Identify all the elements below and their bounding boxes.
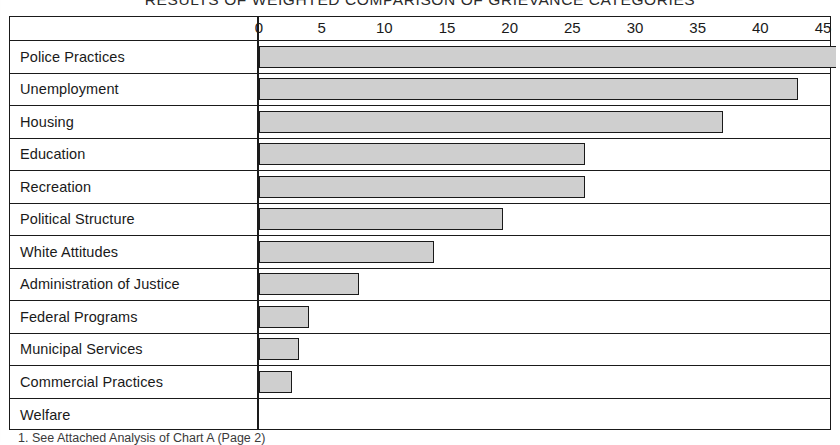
table-row: Administration of Justice <box>10 269 830 302</box>
bar <box>259 241 434 263</box>
bar <box>259 338 299 360</box>
x-axis-tick-5: 5 <box>317 19 325 36</box>
table-row: Commercial Practices <box>10 366 830 399</box>
x-axis-tick-20: 20 <box>501 19 518 36</box>
bar-track <box>259 399 830 432</box>
bar-track <box>259 204 830 236</box>
category-label: Unemployment <box>20 81 119 97</box>
table-row: Recreation <box>10 171 830 204</box>
table-row: Municipal Services <box>10 334 830 367</box>
category-label: Commercial Practices <box>20 374 163 390</box>
chart-footnote: 1. See Attached Analysis of Chart A (Pag… <box>18 431 265 445</box>
x-axis-tick-30: 30 <box>627 19 644 36</box>
category-label: Recreation <box>20 179 91 195</box>
bar-track <box>259 139 830 171</box>
x-axis-tick-10: 10 <box>376 19 393 36</box>
category-label: Housing <box>20 114 74 130</box>
table-row: White Attitudes <box>10 236 830 269</box>
category-label: Political Structure <box>20 211 135 227</box>
bar <box>259 176 585 198</box>
category-label: Welfare <box>20 407 70 423</box>
table-row: Federal Programs <box>10 301 830 334</box>
table-row: Education <box>10 139 830 172</box>
bar-track <box>259 171 830 203</box>
bar-track <box>259 269 830 301</box>
category-label: Administration of Justice <box>20 276 180 292</box>
bar <box>259 46 836 68</box>
bar <box>259 371 292 393</box>
x-axis-tick-40: 40 <box>752 19 769 36</box>
bar-track <box>259 236 830 268</box>
table-row: Political Structure <box>10 204 830 237</box>
bar <box>259 111 723 133</box>
bar <box>259 306 309 328</box>
table-row: Welfare <box>10 399 830 432</box>
x-axis-tick-15: 15 <box>439 19 456 36</box>
category-rows: Police PracticesUnemploymentHousingEduca… <box>10 41 830 429</box>
category-label: White Attitudes <box>20 244 118 260</box>
bar-track <box>259 301 830 333</box>
bar-track <box>259 106 830 138</box>
x-axis-tick-25: 25 <box>564 19 581 36</box>
bar <box>259 78 798 100</box>
x-axis-tick-35: 35 <box>689 19 706 36</box>
bar-track <box>259 366 830 398</box>
table-row: Unemployment <box>10 74 830 107</box>
bar <box>259 143 585 165</box>
chart-frame: 051015202530354045 Police PracticesUnemp… <box>9 16 831 430</box>
bar <box>259 273 359 295</box>
category-label: Education <box>20 146 85 162</box>
category-label: Federal Programs <box>20 309 138 325</box>
bar <box>259 208 503 230</box>
table-row: Housing <box>10 106 830 139</box>
table-row: Police Practices <box>10 41 830 74</box>
bar-track <box>259 74 830 106</box>
x-axis-tick-45: 45 <box>815 19 832 36</box>
bar-track <box>259 41 830 73</box>
category-label: Municipal Services <box>20 341 143 357</box>
bar-track <box>259 334 830 366</box>
chart-title: RESULTS OF WEIGHTED COMPARISON OF GRIEVA… <box>0 0 840 9</box>
x-axis: 051015202530354045 <box>10 17 830 41</box>
category-label: Police Practices <box>20 49 125 65</box>
